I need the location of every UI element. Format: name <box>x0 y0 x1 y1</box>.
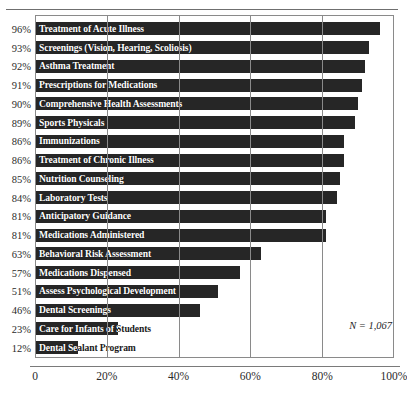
bar-row: Laboratory Tests <box>35 191 394 204</box>
y-axis-value-label: 89% <box>1 117 31 128</box>
bar-row: Medications Administered <box>35 229 394 242</box>
bar-category-label: Dental Sealant Program <box>35 341 78 354</box>
bar-category-label: Treatment of Chronic Illness <box>39 155 154 165</box>
bar: Prescriptions for Medications <box>35 79 362 92</box>
bar-category-label: Immunizations <box>39 137 100 147</box>
x-axis-tick-label: 20% <box>96 370 117 382</box>
x-axis-tick-label: 100% <box>381 370 407 382</box>
gridline <box>107 15 108 358</box>
bar: Laboratory Tests <box>35 191 337 204</box>
bar: Treatment of Acute Illness <box>35 22 380 35</box>
bar-category-label: Comprehensive Health Assessments <box>39 99 182 109</box>
bar: Immunizations <box>35 135 344 148</box>
y-axis-value-label: 12% <box>1 342 31 353</box>
y-axis-value-label: 51% <box>1 286 31 297</box>
bar: Medications Dispensed <box>35 266 240 279</box>
gridline <box>322 15 323 358</box>
x-axis-tick-label: 80% <box>312 370 333 382</box>
bar-row: Assess Psychological Development <box>35 285 394 298</box>
bar-category-label: Medications Administered <box>39 230 144 240</box>
bar-row: Anticipatory Guidance <box>35 210 394 223</box>
y-axis-value-label: 92% <box>1 61 31 72</box>
bar: Asthma Treatment <box>35 60 365 73</box>
y-axis-value-label: 81% <box>1 230 31 241</box>
y-axis-value-label: 81% <box>1 211 31 222</box>
top-horizontal-rule <box>6 9 398 10</box>
y-axis-value-label: 86% <box>1 155 31 166</box>
bar-row: Nutrition Counseling <box>35 172 394 185</box>
bar-category-label: Sports Physicals <box>39 118 104 128</box>
y-axis-value-label: 91% <box>1 80 31 91</box>
bar-category-label: Laboratory Tests <box>39 193 108 203</box>
y-axis-value-label: 63% <box>1 248 31 259</box>
bar-category-label: Screenings (Vision, Hearing, Scoliosis) <box>39 43 192 53</box>
gridline <box>179 15 180 358</box>
bar: Treatment of Chronic Illness <box>35 154 344 167</box>
y-axis-value-label: 57% <box>1 267 31 278</box>
bar-category-label: Nutrition Counseling <box>39 174 124 184</box>
bar: Comprehensive Health Assessments <box>35 97 358 110</box>
y-axis-value-label: 96% <box>1 23 31 34</box>
bar-row: Dental Sealant ProgramDental Sealant Pro… <box>35 341 394 354</box>
bar: Sports Physicals <box>35 116 355 129</box>
y-axis-value-label: 85% <box>1 173 31 184</box>
bar-row: Asthma Treatment <box>35 60 394 73</box>
bar: Dental Screenings <box>35 304 200 317</box>
y-axis-value-label: 46% <box>1 305 31 316</box>
bar-category-label: Dental Screenings <box>39 305 111 315</box>
x-axis-tick-label: 0 <box>32 370 38 382</box>
bar-row: Comprehensive Health Assessments <box>35 97 394 110</box>
sample-size-annotation: N = 1,067 <box>349 320 392 331</box>
bar: Behavioral Risk Assessment <box>35 247 261 260</box>
bar-category-label-overflow: Dental Sealant Program <box>78 341 142 354</box>
bar: Nutrition Counseling <box>35 172 340 185</box>
x-axis-line <box>30 366 400 367</box>
bar-row: Dental Screenings <box>35 304 394 317</box>
bar-row: Treatment of Acute Illness <box>35 22 394 35</box>
bar-category-label: Anticipatory Guidance <box>39 212 131 222</box>
y-axis-value-label: 23% <box>1 323 31 334</box>
bar: Screenings (Vision, Hearing, Scoliosis) <box>35 41 369 54</box>
bar-row: Immunizations <box>35 135 394 148</box>
y-axis-value-labels: 96%93%92%91%90%89%86%86%85%84%81%81%63%5… <box>0 15 31 358</box>
y-axis-value-label: 84% <box>1 192 31 203</box>
y-axis-value-label: 93% <box>1 42 31 53</box>
bar-category-label-overflow: Care for Infants of Students <box>118 322 157 335</box>
bar-row: Behavioral Risk Assessment <box>35 247 394 260</box>
bar: Anticipatory Guidance <box>35 210 326 223</box>
bar-row: Care for Infants of StudentsCare for Inf… <box>35 322 394 335</box>
y-axis-value-label: 86% <box>1 136 31 147</box>
plot-area: Treatment of Acute IllnessScreenings (Vi… <box>35 15 394 358</box>
bar-category-label: Medications Dispensed <box>39 268 131 278</box>
x-axis-tick-labels: 020%40%60%80%100% <box>0 370 404 390</box>
bar-row: Treatment of Chronic Illness <box>35 154 394 167</box>
bar-category-label: Prescriptions for Medications <box>39 80 157 90</box>
bar-row: Sports Physicals <box>35 116 394 129</box>
bar-category-label: Treatment of Acute Illness <box>39 24 144 34</box>
bar-category-label: Asthma Treatment <box>39 62 114 72</box>
bar-category-label: Behavioral Risk Assessment <box>39 249 151 259</box>
bar: Medications Administered <box>35 229 326 242</box>
bar-rows: Treatment of Acute IllnessScreenings (Vi… <box>35 15 394 358</box>
gridline <box>250 15 251 358</box>
x-axis-tick-label: 40% <box>168 370 189 382</box>
y-axis-value-label: 90% <box>1 98 31 109</box>
x-axis-tick-label: 60% <box>240 370 261 382</box>
bar: Assess Psychological Development <box>35 285 218 298</box>
bar-row: Medications Dispensed <box>35 266 394 279</box>
bar-row: Screenings (Vision, Hearing, Scoliosis) <box>35 41 394 54</box>
bar-row: Prescriptions for Medications <box>35 79 394 92</box>
bar-category-label: Care for Infants of Students <box>35 322 118 335</box>
